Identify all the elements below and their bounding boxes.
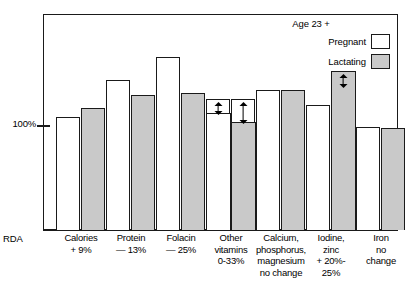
category-label-line: 25% <box>296 267 366 279</box>
bar-group-protein <box>106 14 156 230</box>
bar-other-vitamins-lactating-fill <box>231 122 256 230</box>
arrow-shaft <box>242 105 244 121</box>
category-label-line: change <box>346 255 410 267</box>
bar-iron-pregnant <box>356 127 380 230</box>
bars-area <box>43 14 398 230</box>
bar-group-other-vitamins <box>206 14 256 230</box>
bar-group-calcium <box>256 14 306 230</box>
bar-calcium-pregnant <box>256 90 280 230</box>
rda-bar-chart: 100% RDA Age 23 + Pregnant Lactating <box>0 0 410 291</box>
bar-calories-lactating <box>81 108 105 230</box>
bar-group-iodine-zinc <box>306 14 356 230</box>
bar-other-vitamins-pregnant <box>206 99 230 230</box>
bar-group-folacin <box>156 14 206 230</box>
arrow-head-down-icon <box>239 120 247 124</box>
bar-iodine-zinc-lactating <box>331 71 355 230</box>
bar-group-iron <box>356 14 406 230</box>
arrow-head-down-icon <box>339 84 347 88</box>
range-arrow-other-vitamins-lactating <box>239 102 248 124</box>
bar-iodine-zinc-pregnant <box>306 105 330 230</box>
bar-group-calories <box>56 14 106 230</box>
bar-folacin-pregnant <box>156 57 180 230</box>
range-arrow-iodine-zinc-lactating <box>339 74 348 88</box>
category-label-iron: Iron no change <box>346 232 410 267</box>
bar-iron-lactating <box>381 128 405 230</box>
category-label-line: no <box>346 244 410 256</box>
bar-calcium-lactating <box>281 90 305 230</box>
category-label-line: Iron <box>346 232 410 244</box>
y-axis-tick-label-100: 100% <box>0 118 36 129</box>
arrow-head-down-icon <box>214 111 222 115</box>
bar-iodine-zinc-lactating-fill <box>331 71 356 230</box>
bar-other-vitamins-pregnant-fill <box>206 113 231 230</box>
bar-protein-lactating <box>131 95 155 230</box>
bar-other-vitamins-lactating <box>231 99 255 230</box>
bar-calories-pregnant <box>56 117 80 230</box>
rda-axis-label: RDA <box>3 233 23 244</box>
x-axis-category-labels: Calories + 9% Protein — 13% Folacin — 25… <box>43 232 398 291</box>
bar-protein-pregnant <box>106 80 130 230</box>
bar-folacin-lactating <box>181 93 205 230</box>
range-arrow-other-vitamins-pregnant <box>214 102 223 115</box>
